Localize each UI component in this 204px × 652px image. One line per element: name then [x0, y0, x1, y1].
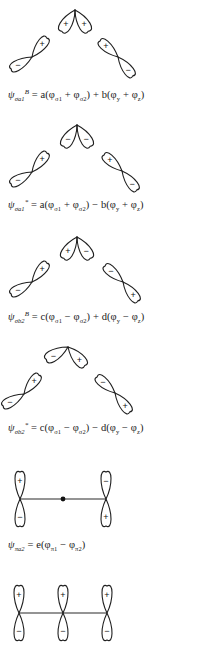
minus-sign: −	[15, 285, 20, 295]
diagram-sigma-b2-bonding: +−+−−+	[10, 237, 141, 303]
equation-pi-a2: ψπa2 = e(φπ1 − φπ2)	[8, 539, 85, 552]
minus-sign: −	[60, 626, 65, 636]
plus-sign: +	[17, 476, 22, 486]
plus-sign: +	[130, 290, 135, 300]
plus-sign: +	[77, 355, 82, 365]
plus-sign: +	[122, 401, 127, 411]
plus-sign: +	[39, 264, 44, 274]
plus-sign: +	[104, 590, 109, 600]
minus-sign: −	[104, 626, 109, 636]
plus-sign: +	[39, 154, 44, 164]
plus-sign: +	[39, 39, 44, 49]
plus-sign: +	[31, 376, 36, 386]
minus-sign: −	[100, 377, 105, 387]
minus-sign: −	[17, 512, 22, 522]
minus-sign: −	[15, 60, 20, 70]
diagram-pi-nonbonding: +−+−+−	[14, 585, 112, 640]
minus-sign: −	[125, 65, 130, 75]
left-p-lower-lobe	[2, 394, 24, 409]
minus-sign: −	[15, 175, 20, 185]
minus-sign: −	[129, 179, 134, 189]
minus-sign: −	[7, 397, 12, 407]
minus-sign: −	[65, 134, 70, 144]
minus-sign: −	[108, 266, 113, 276]
diagram-sigma-a1-antibonding: −−+−+−	[10, 125, 140, 192]
equation-sigma-b2-bonding: ψσb2B = c(φσ1 − φσ2) + d(φy − φz)	[8, 310, 144, 324]
equation-sigma-a1-antibonding: ψσa1* = a(φσ1 + φσ2) − b(φy + φz)	[8, 198, 144, 212]
center-atom-dot	[61, 497, 66, 502]
plus-sign: +	[65, 246, 70, 256]
plus-sign: +	[103, 512, 108, 522]
left-p-lower-lobe	[10, 282, 32, 297]
plus-sign: +	[63, 19, 68, 29]
plus-sign: +	[107, 155, 112, 165]
plus-sign: +	[16, 590, 21, 600]
diagram-pi-a2: +−−+	[15, 471, 111, 526]
minus-sign: −	[83, 246, 88, 256]
plus-sign: +	[60, 590, 65, 600]
minus-sign: −	[51, 351, 56, 361]
left-p-lower-lobe	[10, 172, 32, 187]
minus-sign: −	[16, 626, 21, 636]
center-left-lobe	[44, 347, 68, 363]
minus-sign: −	[103, 476, 108, 486]
left-p-lower-lobe	[10, 57, 32, 72]
diagram-sigma-a1-bonding: +++−+−	[10, 10, 136, 78]
equation-sigma-a1-bonding: ψσa1B = a(φσ1 + φσ2) + b(φy + φz)	[8, 88, 144, 102]
plus-sign: +	[103, 41, 108, 51]
plus-sign: +	[81, 19, 86, 29]
minus-sign: −	[83, 134, 88, 144]
diagram-sigma-b2-antibonding: −++−−+	[2, 347, 133, 414]
equation-sigma-b2-antibonding: ψσb2* = c(φσ1 − φσ2) − d(φy − φz)	[8, 421, 144, 435]
